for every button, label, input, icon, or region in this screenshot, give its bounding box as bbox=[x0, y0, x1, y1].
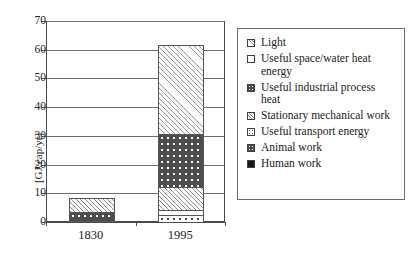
legend-item[interactable]: Useful space/water heat energy bbox=[247, 52, 398, 77]
legend-item[interactable]: Human work bbox=[247, 157, 398, 170]
y-tick-mark bbox=[42, 50, 46, 51]
legend-swatch-icon bbox=[247, 84, 255, 92]
y-tick-mark bbox=[42, 78, 46, 79]
legend-item[interactable]: Useful transport energy bbox=[247, 125, 398, 138]
legend-label: Animal work bbox=[261, 141, 322, 154]
legend-label: Useful industrial process heat bbox=[261, 81, 375, 106]
legend-item[interactable]: Animal work bbox=[247, 141, 398, 154]
legend-label: Light bbox=[261, 36, 286, 49]
y-tick-label: 30 bbox=[0, 130, 55, 142]
legend-label: Useful transport energy bbox=[261, 125, 369, 138]
x-tick-mark bbox=[136, 222, 137, 226]
y-tick-mark bbox=[42, 21, 46, 22]
legend-label: Human work bbox=[261, 157, 321, 170]
y-tick-label: 10 bbox=[0, 187, 55, 199]
legend-swatch-icon bbox=[247, 144, 255, 152]
y-tick-mark bbox=[42, 107, 46, 108]
y-tick-label: 60 bbox=[0, 44, 55, 56]
y-tick-label: 40 bbox=[0, 101, 55, 113]
x-tick-mark bbox=[225, 222, 226, 226]
legend-item[interactable]: Stationary mechanical work bbox=[247, 109, 398, 122]
legend-swatch-icon bbox=[247, 55, 255, 63]
legend-item[interactable]: Useful industrial process heat bbox=[247, 81, 398, 106]
legend-swatch-icon bbox=[247, 160, 255, 168]
x-tick-label-1830: 1830 bbox=[51, 228, 131, 243]
y-tick-label: 50 bbox=[0, 72, 55, 84]
y-tick-mark bbox=[42, 193, 46, 194]
legend-swatch-icon bbox=[247, 112, 255, 120]
y-tick-label: 20 bbox=[0, 159, 55, 171]
x-tick-label-1995: 1995 bbox=[140, 228, 220, 243]
legend-item[interactable]: Light bbox=[247, 36, 398, 49]
legend-items: LightUseful space/water heat energyUsefu… bbox=[247, 36, 398, 170]
y-tick-mark bbox=[42, 136, 46, 137]
legend-swatch-icon bbox=[247, 128, 255, 136]
legend-label: Stationary mechanical work bbox=[261, 109, 390, 122]
stacked-bar-chart: [GJ/cap/yr] 010203040506070 18301995 Lig… bbox=[0, 0, 409, 253]
legend-swatch-icon bbox=[247, 39, 255, 47]
x-tick-mark bbox=[46, 222, 47, 226]
legend: LightUseful space/water heat energyUsefu… bbox=[237, 28, 405, 200]
legend-label: Useful space/water heat energy bbox=[261, 52, 371, 77]
y-tick-mark bbox=[42, 165, 46, 166]
y-tick-label: 70 bbox=[0, 15, 55, 27]
